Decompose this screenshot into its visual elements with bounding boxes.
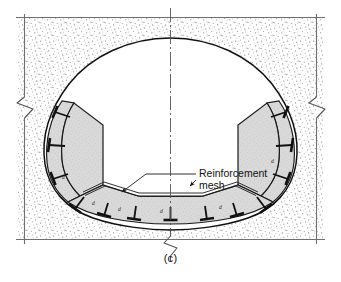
bolt-label: d <box>271 158 274 164</box>
bolt-label: d <box>62 174 65 180</box>
bolt-label: d <box>160 208 163 214</box>
bolt-label: d <box>118 206 121 212</box>
reinforcement-mesh-leader <box>122 174 196 192</box>
reinforcement-mesh-label-line2: mesh <box>199 179 225 191</box>
reinforcement-mesh-label-line1: Reinforcement <box>199 167 267 179</box>
bolt-label: d <box>92 200 95 206</box>
figure-caption: (c) <box>0 252 341 264</box>
tunnel-cross-section-figure: d d d d d d Reinforcement mesh <box>0 0 341 282</box>
drawing-canvas: d d d d d d Reinforcement mesh <box>0 0 341 282</box>
bolt-label: d <box>219 204 222 210</box>
